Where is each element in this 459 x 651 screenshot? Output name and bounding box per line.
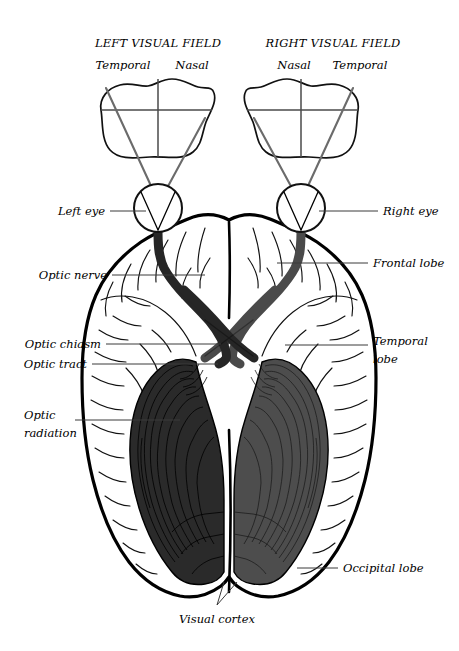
- label-optic-chiasm: Optic chiasm: [25, 337, 101, 351]
- right-visual-field-group: [244, 79, 358, 158]
- diagram-canvas: LEFT VISUAL FIELD Temporal Nasal RIGHT V…: [0, 0, 459, 651]
- left-visual-field-title: LEFT VISUAL FIELD: [94, 36, 221, 50]
- left-eyeball: [134, 184, 182, 232]
- left-eye-group: [134, 184, 182, 232]
- right-field-temporal-label: Temporal: [333, 58, 388, 72]
- longitudinal-fissure-frontal: [229, 222, 230, 318]
- left-field-temporal-label: Temporal: [96, 58, 151, 72]
- label-temporal-lobe-line2: lobe: [373, 352, 398, 366]
- label-occipital-lobe: Occipital lobe: [343, 561, 424, 575]
- label-temporal-lobe-line1: Temporal: [373, 334, 428, 348]
- left-field-nasal-label: Nasal: [174, 58, 209, 72]
- right-eyeball: [277, 184, 325, 232]
- label-optic-radiation-line2: radiation: [24, 426, 77, 440]
- right-visual-field-title: RIGHT VISUAL FIELD: [265, 36, 401, 50]
- label-optic-radiation-line1: Optic: [24, 408, 56, 422]
- label-visual-cortex: Visual cortex: [179, 612, 256, 626]
- right-eye-group: [277, 184, 325, 232]
- label-left-eye: Left eye: [57, 204, 105, 218]
- left-visual-field-group: [101, 79, 215, 158]
- visual-pathway-figure: LEFT VISUAL FIELD Temporal Nasal RIGHT V…: [0, 0, 459, 651]
- label-optic-nerve: Optic nerve: [39, 268, 107, 282]
- label-optic-tract: Optic tract: [24, 357, 88, 371]
- label-right-eye: Right eye: [382, 204, 439, 218]
- right-field-nasal-label: Nasal: [276, 58, 311, 72]
- label-frontal-lobe: Frontal lobe: [372, 256, 445, 270]
